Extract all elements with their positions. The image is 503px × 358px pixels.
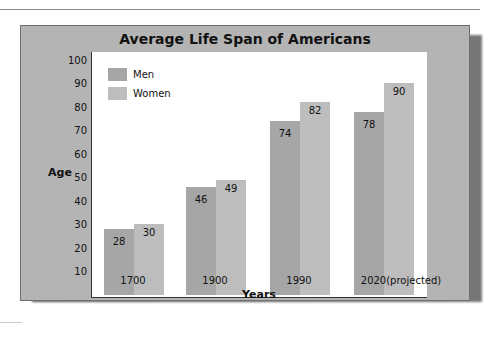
bar-value-label: 49 [216,183,246,194]
top-rule [0,9,480,10]
legend-swatch-women [108,87,127,100]
bar-men-1990: 74 [270,121,300,295]
bar-women-2020projected: 90 [384,83,414,295]
x-tick-label: 2020(projected) [361,275,441,286]
y-tick-label: 30 [61,219,87,230]
plot-area: Men Women 2830464974827890 [91,52,427,298]
bar-value-label: 90 [384,86,414,97]
bar-women-1990: 82 [300,102,330,295]
x-axis-label: Years [242,288,276,301]
bar-value-label: 74 [270,128,300,139]
bar-men-2020projected: 78 [354,112,384,295]
bar-value-label: 28 [104,236,134,247]
chart-frame: Average Life Span of Americans 102030405… [20,25,470,301]
bar-value-label: 78 [354,119,384,130]
x-tick-label: 1700 [120,275,145,286]
bar-value-label: 82 [300,105,330,116]
y-tick-label: 80 [61,102,87,113]
y-tick-label: 60 [61,149,87,160]
x-tick-label: 1990 [286,275,311,286]
y-tick-label: 10 [61,266,87,277]
y-axis-label: Age [48,166,72,179]
bar-value-label: 30 [134,227,164,238]
legend-swatch-men [108,68,127,81]
chart-title: Average Life Span of Americans [21,31,469,47]
bar-value-label: 46 [186,194,216,205]
left-rule [0,322,22,323]
y-tick-label: 40 [61,196,87,207]
y-tick-label: 70 [61,125,87,136]
y-tick-label: 90 [61,78,87,89]
y-tick-label: 20 [61,243,87,254]
legend-label-women: Women [133,88,171,99]
x-tick-label: 1900 [202,275,227,286]
legend-label-men: Men [133,69,154,80]
y-tick-label: 100 [61,55,87,66]
